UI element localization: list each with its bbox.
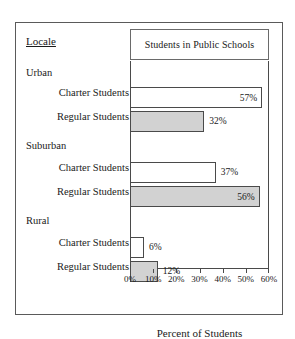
plot-panel: Students in Public Schools 57%32%37%56%6… [130, 23, 282, 314]
bar-suburban-regular: 56% [130, 186, 260, 207]
bar-urban-regular [130, 111, 204, 132]
x-tick-40% [223, 269, 224, 273]
x-tick-label-20%: 20% [168, 274, 185, 284]
row-label-suburban-regular: Regular Students [57, 186, 129, 197]
x-tick-label-30%: 30% [191, 274, 208, 284]
chart-title-box: Students in Public Schools [130, 29, 269, 60]
bar-value-suburban-charter: 37% [221, 167, 238, 177]
bar-suburban-charter [130, 162, 216, 183]
x-tick-60% [268, 269, 269, 273]
x-tick-20% [176, 269, 177, 273]
row-label-rural-regular: Regular Students [57, 261, 129, 272]
group-label-urban: Urban [26, 67, 52, 78]
x-tick-label-10%: 10% [145, 274, 162, 284]
x-tick-0% [130, 269, 131, 273]
x-tick-label-0%: 0% [124, 274, 136, 284]
x-tick-10% [153, 269, 154, 273]
chart-title: Students in Public Schools [145, 39, 255, 50]
chart-figure-frame: Locale Urban Charter Students Regular St… [15, 22, 283, 315]
x-tick-label-50%: 50% [238, 274, 255, 284]
bar-value-suburban-regular: 56% [237, 192, 254, 202]
x-tick-50% [246, 269, 247, 273]
bar-urban-charter: 57% [130, 87, 262, 108]
x-tick-label-40%: 40% [214, 274, 231, 284]
bar-value-urban-regular: 32% [209, 116, 226, 126]
plot-right-border [268, 61, 269, 269]
group-label-rural: Rural [26, 215, 49, 226]
x-axis-title: Percent of Students [130, 327, 269, 339]
bar-rural-charter [130, 237, 144, 258]
row-label-rural-charter: Charter Students [59, 237, 129, 248]
locale-column-header: Locale [26, 35, 56, 47]
plot-area: 57%32%37%56%6%12% 0%10%20%30%40%50%60% P… [130, 61, 269, 269]
locale-label-column: Locale Urban Charter Students Regular St… [16, 23, 131, 314]
x-tick-label-60%: 60% [261, 274, 278, 284]
row-label-urban-charter: Charter Students [59, 87, 129, 98]
bar-value-urban-charter: 57% [240, 93, 257, 103]
row-label-urban-regular: Regular Students [57, 111, 129, 122]
group-label-suburban: Suburban [26, 140, 66, 151]
row-label-suburban-charter: Charter Students [59, 162, 129, 173]
x-tick-30% [200, 269, 201, 273]
bar-value-rural-charter: 6% [149, 242, 162, 252]
